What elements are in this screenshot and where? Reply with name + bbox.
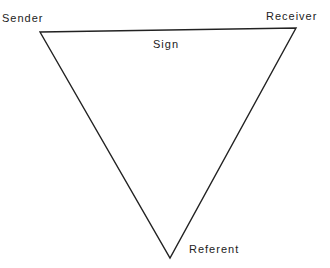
sign-label: Sign bbox=[153, 38, 179, 50]
triangle-shape bbox=[40, 28, 296, 258]
sender-label: Sender bbox=[2, 12, 43, 24]
receiver-label: Receiver bbox=[266, 10, 317, 22]
referent-label: Referent bbox=[189, 243, 239, 255]
